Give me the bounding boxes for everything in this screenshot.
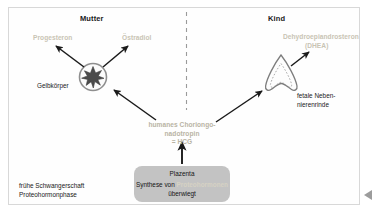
label-corpus-luteum: Gelbkörper [37, 82, 69, 89]
label-estradiol: Östradiol [122, 34, 151, 42]
label-fetal-adrenal-line2: nierenrinde [297, 101, 329, 108]
left-arrow-marker-icon [364, 190, 372, 200]
phase-caption-line1: frühe Schwangerschaft [19, 181, 84, 190]
label-dhea-line1: Dehydroepiandrosteron [283, 33, 359, 41]
figure-canvas: Mutter Kind Progesteron Östradiol Gelbkö… [0, 0, 377, 218]
placenta-title: Plazenta [134, 170, 230, 177]
label-hcg-line1: humanes Choriongo- [138, 121, 226, 129]
phase-caption-line2: Proteohormonphase [19, 190, 77, 199]
label-progesterone: Progesteron [33, 34, 72, 42]
placenta-overweight-line: überwiegt [134, 190, 230, 197]
placenta-box: Plazenta Synthese von Proteohormonen übe… [134, 166, 230, 202]
label-hcg-line3: = HCG [138, 138, 226, 146]
placenta-synthesis-line: Synthese von Proteohormonen [134, 181, 230, 188]
header-mother: Mutter [80, 15, 104, 24]
label-fetal-adrenal-line1: fetale Neben- [297, 92, 335, 99]
placenta-synthesis-prefix: Synthese von [136, 181, 177, 188]
label-hcg-line2: nadotropin [138, 130, 226, 138]
placenta-synthesis-highlight: Proteohormonen [177, 181, 228, 188]
header-child: Kind [268, 15, 285, 24]
label-dhea-line2: (DHEA) [305, 42, 328, 50]
